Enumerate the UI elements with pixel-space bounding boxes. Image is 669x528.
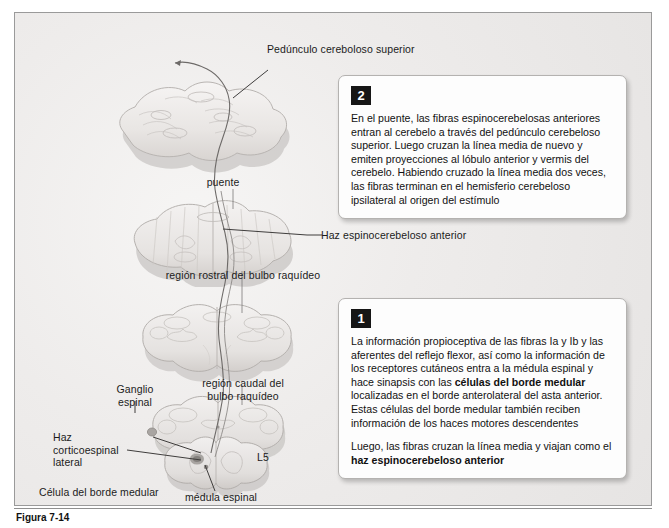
- label-superior-cerebellar-peduncle: Pedúnculo cereboloso superior: [267, 43, 415, 56]
- label-spinal-cord: médula espinal: [185, 491, 257, 504]
- midbrain-cerebellum-section: [105, 71, 295, 176]
- label-spinal-ganglion: Ganglio espinal: [103, 383, 167, 408]
- figure-caption-number: Figura 7-14: [16, 512, 69, 523]
- label-lateral-corticospinal-tract: Haz corticoespinal lateral: [53, 431, 119, 469]
- callout-box-1: 1 La información propioceptiva de las fi…: [338, 298, 627, 479]
- label-border-cell: Célula del borde medular: [39, 486, 159, 499]
- figure-plate: Pedúnculo cereboloso superior puente reg…: [14, 12, 652, 506]
- label-caudal-medulla: región caudal del bulbo raquídeo: [173, 377, 313, 402]
- callout-box-2: 2 En el puente, las fibras espinocerebel…: [338, 75, 627, 219]
- callout-2-number: 2: [351, 86, 371, 105]
- rostral-medulla-section: [133, 299, 301, 383]
- callout-1-number: 1: [351, 309, 371, 328]
- callout-1-term-anterior-tract: haz espinocerebeloso anterior: [351, 454, 504, 466]
- callout-1-paragraph-1: La información propioceptiva de las fibr…: [351, 335, 614, 430]
- callout-1-paragraph-2: Luego, las fibras cruzan la línea media …: [351, 440, 614, 467]
- label-anterior-spinocerebellar-tract: Haz espinocerebeloso anterior: [321, 229, 466, 242]
- spinal-cord-section: [157, 435, 275, 497]
- label-rostral-medulla: región rostral del bulbo raquídeo: [133, 269, 353, 282]
- figure-root: Pedúnculo cereboloso superior puente reg…: [0, 0, 669, 528]
- callout-1-term-border-cells: células del borde medular: [455, 376, 586, 388]
- callout-2-paragraph-1: En el puente, las fibras espinocerebelos…: [351, 112, 614, 207]
- label-pons: puente: [193, 176, 253, 189]
- label-level-l5: L5: [257, 451, 269, 464]
- figure-caption: Figura 7-14: [16, 512, 69, 523]
- caption-rule: [14, 508, 652, 509]
- spinal-ganglion-marker: [143, 425, 161, 439]
